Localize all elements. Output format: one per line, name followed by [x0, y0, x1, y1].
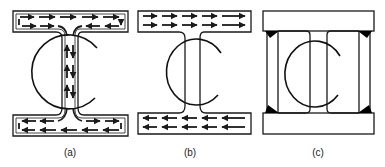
- panel-label-c: (c): [312, 147, 324, 158]
- bottom-plate-c: [263, 113, 374, 134]
- flow-arrows-bottom-b: [143, 118, 245, 127]
- figure-canvas: (a) (b): [0, 0, 385, 167]
- current-loop-b: [166, 39, 221, 105]
- i-beam-outline-a: [13, 11, 128, 136]
- top-plate-c: [263, 11, 374, 31]
- panel-b: (b): [138, 11, 251, 158]
- i-beam-outline-b: [138, 11, 251, 134]
- flow-arrows-top-b: [143, 16, 245, 25]
- current-loop-a: [32, 35, 97, 109]
- flow-arrows-top-a: [19, 17, 121, 36]
- flow-arrows-web-a: [67, 45, 73, 98]
- panel-label-a: (a): [64, 147, 76, 158]
- panel-c: (c): [263, 11, 374, 158]
- current-loop-c: [285, 41, 340, 107]
- panel-a: (a): [13, 11, 128, 158]
- flow-arrows-bottom-a: [19, 108, 121, 130]
- panel-label-b: (b): [184, 147, 196, 158]
